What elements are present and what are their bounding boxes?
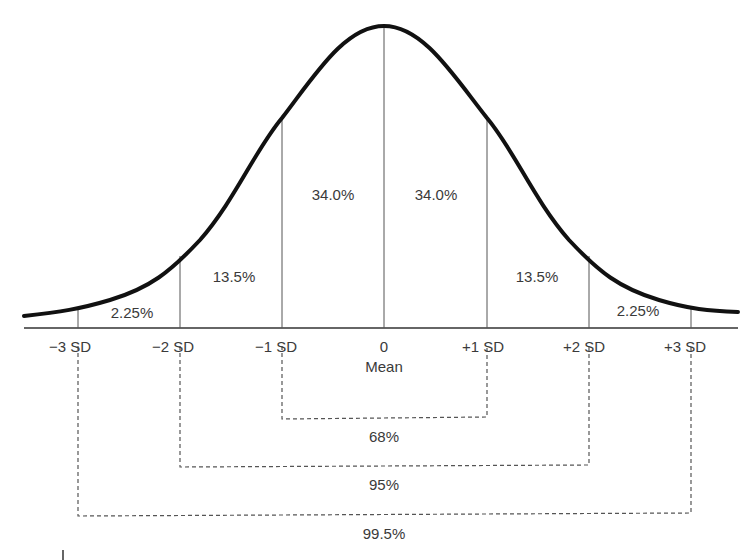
tick-neg3-sd: −3 SD — [49, 338, 91, 355]
bracket-label-95: 95% — [369, 476, 399, 493]
bracket-68 — [282, 346, 487, 419]
tick-neg2-sd: −2 SD — [152, 338, 194, 355]
tick-neg1-sd: −1 SD — [255, 338, 297, 355]
mean-label: Mean — [365, 358, 403, 375]
region-pct-neg3-neg2: 2.25% — [111, 304, 154, 321]
region-pct-pos2-pos3: 2.25% — [617, 302, 660, 319]
tick-zero: 0 — [380, 338, 388, 355]
bell-curve — [24, 26, 738, 316]
tick-pos1-sd: +1 SD — [462, 338, 504, 355]
region-pct-pos1-pos2: 13.5% — [516, 268, 559, 285]
bracket-label-99-5: 99.5% — [363, 525, 406, 542]
tick-pos3-sd: +3 SD — [664, 338, 706, 355]
region-pct-neg1-0: 34.0% — [312, 186, 355, 203]
tick-pos2-sd: +2 SD — [563, 338, 605, 355]
sd-divider-lines — [78, 26, 691, 328]
region-pct-0-pos1: 34.0% — [415, 186, 458, 203]
region-pct-neg2-neg1: 13.5% — [213, 268, 256, 285]
bracket-label-68: 68% — [369, 428, 399, 445]
